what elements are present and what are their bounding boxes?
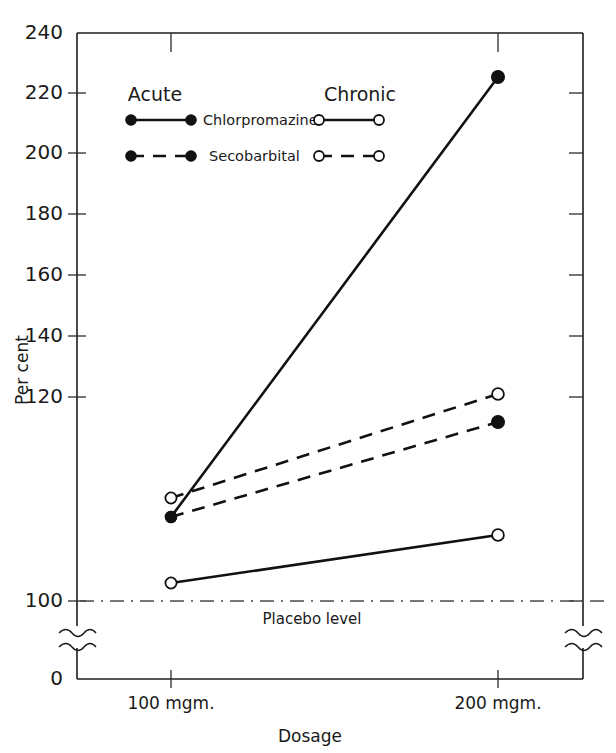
legend-label-secobarbital: Secobarbital [209,148,300,164]
ytick-label-200: 200 [25,140,63,164]
plot-frame [77,33,583,679]
series-acute-chlorpromazine [165,71,504,523]
ytick-label-240: 240 [25,20,63,44]
series-chronic-secobarbital [165,388,504,504]
legend-marker-filled [186,151,196,161]
chart-figure: 240 220 200 180 160 140 120 100 0 Per ce… [0,0,616,753]
legend-header-acute: Acute [128,83,182,105]
y-axis-ticks-right [569,93,583,601]
legend-marker-filled [186,115,196,125]
ytick-label-220: 220 [25,80,63,104]
series-chronic-chlorpromazine [165,529,504,589]
y-axis-break-left [58,626,96,651]
legend-header-chronic: Chronic [324,83,396,105]
data-point [165,577,176,588]
chart-svg: 240 220 200 180 160 140 120 100 0 Per ce… [0,0,616,753]
legend-row-chlorpromazine: Chlorpromazine [126,112,384,128]
placebo-reference: Placebo level [80,601,611,628]
x-axis-ticks [171,33,498,688]
data-point [492,529,504,541]
data-point [165,492,176,503]
ytick-label-0: 0 [50,666,63,690]
legend-marker-open [374,115,384,125]
data-point [492,71,505,84]
legend-marker-filled [126,115,136,125]
legend-marker-open [314,115,324,125]
y-axis-break-right [564,626,602,651]
ytick-label-160: 160 [25,262,63,286]
data-point [492,388,504,400]
data-point [492,416,505,429]
legend-marker-open [314,151,324,161]
ytick-label-180: 180 [25,201,63,225]
legend-marker-open [374,151,384,161]
chart-legend: Acute Chronic Chlorpromazine Secobarbita… [126,83,396,164]
xtick-label-200mgm: 200 mgm. [454,693,541,713]
data-point [165,511,176,522]
y-axis-title: Per cent [12,335,32,405]
legend-label-chlorpromazine: Chlorpromazine [203,112,318,128]
x-axis-title: Dosage [278,726,342,746]
legend-marker-filled [126,151,136,161]
placebo-level-label: Placebo level [262,610,361,628]
series-acute-secobarbital [165,416,504,523]
ytick-label-100: 100 [25,588,63,612]
legend-row-secobarbital: Secobarbital [126,148,384,164]
xtick-label-100mgm: 100 mgm. [127,693,214,713]
